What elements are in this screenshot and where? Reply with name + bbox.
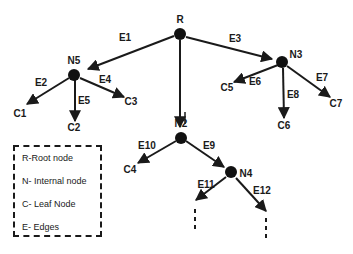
node-n3 [276, 56, 288, 68]
edge-label-e6: E6 [249, 76, 262, 87]
edge-label-e12: E12 [253, 185, 271, 196]
legend-box: R-Root node N- Internal node C- Leaf Nod… [13, 145, 102, 237]
legend-item-leaf: C- Leaf Node [22, 197, 100, 220]
edge-label-e5: E5 [78, 95, 91, 106]
node-label-c1: C1 [14, 108, 27, 119]
node-label-n2: N2 [175, 118, 188, 129]
legend-item-internal: N- Internal node [22, 174, 100, 197]
node-label-r: R [176, 14, 184, 25]
edge-label-e8: E8 [287, 89, 300, 100]
edge-label-e3: E3 [229, 33, 242, 44]
node-label-c6: C6 [278, 120, 291, 131]
node-label-n5: N5 [68, 55, 81, 66]
edge-label-e11: E11 [197, 179, 215, 190]
edge-e8 [283, 68, 284, 118]
edge-e2 [27, 78, 69, 104]
node-label-c5: C5 [221, 82, 234, 93]
node-label-c3: C3 [125, 96, 138, 107]
node-n2 [175, 132, 187, 144]
edge-label-e1: E1 [119, 32, 132, 43]
node-n4 [225, 166, 237, 178]
node-label-c7: C7 [330, 98, 343, 109]
node-label-c2: C2 [68, 122, 81, 133]
node-label-c4: C4 [124, 164, 137, 175]
node-label-n4: N4 [240, 168, 253, 179]
edge-label-e9: E9 [203, 140, 216, 151]
edge-label-e7: E7 [316, 72, 329, 83]
legend-item-edges: E- Edges [22, 220, 100, 243]
node-n5 [68, 69, 80, 81]
node-r [174, 28, 186, 40]
node-label-n3: N3 [290, 49, 303, 60]
legend-item-root: R-Root node [22, 151, 100, 174]
edge-label-e10: E10 [138, 140, 156, 151]
edge-label-e2: E2 [35, 77, 48, 88]
edge-label-e4: E4 [99, 74, 112, 85]
